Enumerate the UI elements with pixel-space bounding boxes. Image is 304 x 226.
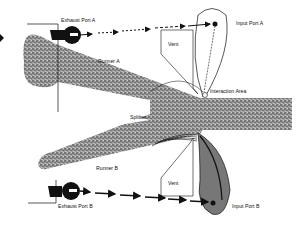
- exhaust-port-b-label: Exhaust Port B: [58, 203, 93, 209]
- interaction-area-label: Interaction Area: [210, 88, 246, 94]
- input-port-b-label: Input Port B: [232, 203, 260, 209]
- input-port-a-node: [213, 22, 218, 27]
- interaction-area-marker: [203, 93, 208, 98]
- vent-b: [161, 138, 193, 196]
- edge-marker-icon: [0, 34, 4, 42]
- vent-b-label: Vent: [168, 180, 179, 186]
- vent-a-label: Vent: [168, 41, 179, 47]
- runner-b-label: Runner B: [96, 165, 118, 171]
- splitter-label: Splitter: [130, 114, 146, 120]
- input-port-a-label: Input Port A: [236, 20, 264, 26]
- flow-splitter-diagram: Exhaust Port A Input Port A Vent Interac…: [0, 0, 304, 226]
- runner-a-label: Runner A: [98, 58, 120, 64]
- input-port-b-node: [211, 201, 216, 206]
- input-port-a-loop: [195, 9, 227, 98]
- exhaust-port-a-label: Exhaust Port A: [61, 17, 96, 23]
- exhaust-port-b: [48, 182, 80, 200]
- exhaust-port-a: [50, 26, 81, 44]
